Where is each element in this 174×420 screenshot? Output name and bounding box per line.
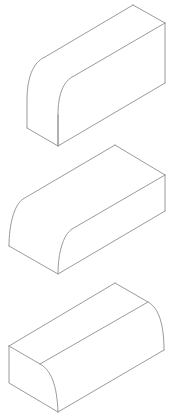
block-rounded-front-top-edge (27, 5, 165, 146)
outer-profile-line (9, 145, 115, 246)
front-curve-line (9, 346, 58, 412)
top-back-line (133, 5, 165, 23)
top-edge-line (9, 283, 115, 346)
outer-profile-line (27, 5, 133, 128)
block-rounded-top-right-edge (9, 283, 164, 412)
inner-profile-line (58, 175, 165, 274)
inner-profile-line (58, 23, 165, 146)
diagram-canvas (0, 0, 174, 420)
bottom-line (27, 83, 165, 146)
block-rounded-front-left-edge (9, 145, 165, 274)
top-back-line (115, 145, 165, 175)
bottom-right-line (58, 350, 164, 412)
ridge-line (40, 302, 148, 364)
left-face-line (9, 346, 58, 412)
